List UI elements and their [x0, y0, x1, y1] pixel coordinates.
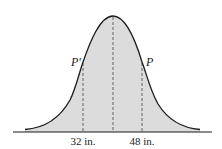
- curve-shaded-area: [25, 16, 200, 132]
- normal-curve-diagram: P' P 32 in. 48 in.: [0, 0, 222, 149]
- tick-label-32: 32 in.: [70, 135, 95, 147]
- tick-label-48: 48 in.: [129, 135, 154, 147]
- label-p-prime: P': [70, 55, 81, 69]
- label-p: P: [145, 55, 154, 69]
